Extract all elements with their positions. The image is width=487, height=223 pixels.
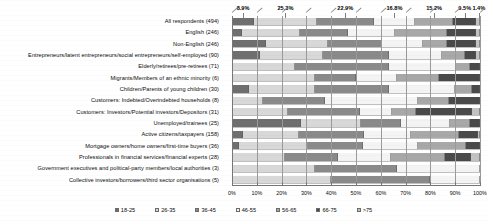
bar-segment [232,131,243,138]
stacked-bar-chart: 8.9%25.3%22.9%16.8%15.2%9.5%1.4% All res… [0,0,487,223]
bar-row [232,118,480,129]
legend-item[interactable]: 66-75 [316,207,336,213]
category-label: Mortgage owners/home owners/first-time b… [0,141,222,152]
bar-segment [317,18,374,25]
data-label: 15.2% [426,5,442,11]
stacked-bar [232,108,480,115]
legend-swatch-icon [115,208,119,212]
bar-segment [470,63,480,70]
bar-segment [288,108,360,115]
bar-segment [466,142,480,149]
x-tick-mark [306,182,307,186]
stacked-bar [232,74,480,81]
bar-segment [232,108,288,115]
bar-segment [232,29,242,36]
stacked-bar [232,63,480,70]
data-label: 8.9% [237,5,250,11]
bar-segment [392,108,416,115]
stacked-bar [232,18,480,25]
bar-segment [459,131,478,138]
legend-label: 46-55 [242,207,256,213]
bar-segment [300,29,348,36]
category-label: Children/Parents of young children (30) [0,84,222,95]
bar-segment [415,18,453,25]
bar-segment [397,74,438,81]
x-tick-mark [381,182,382,186]
bar-segment [232,153,285,160]
bar-row [232,73,480,84]
bar-segment [232,63,295,70]
bar-segment [397,165,480,172]
bar-segment [328,40,383,47]
bar-segment [439,74,480,81]
stacked-bar [232,131,480,138]
legend-label: >75 [363,207,373,213]
x-tick-mark [455,182,456,186]
stacked-bar [232,97,480,104]
legend-item[interactable]: >75 [357,207,373,213]
bar-row [232,61,480,72]
legend-swatch-icon [276,208,280,212]
bar-segment [232,74,315,81]
bar-segment [411,131,460,138]
x-tick-mark [331,182,332,186]
stacked-bar [232,153,480,160]
x-tick-label: 70% [400,190,411,196]
bar-segment [364,131,411,138]
bar-segment [395,29,446,36]
bar-row [232,39,480,50]
bar-segment [308,142,363,149]
bar-segment [285,153,338,160]
legend-item[interactable]: 36-45 [195,207,215,213]
bar-segment [389,63,455,70]
stacked-bar [232,40,480,47]
legend-label: 36-45 [201,207,215,213]
bar-segment [232,51,260,58]
x-tick-mark [480,182,481,186]
bar-segment [323,51,389,58]
bar-rows [232,16,480,186]
bar-segment [360,108,392,115]
bar-segment [476,51,480,58]
bar-segment [232,165,315,172]
bar-segment [442,51,465,58]
chart-legend: 18-2526-3536-4546-5556-6566-75>75 [0,203,487,217]
x-tick-label: 10% [251,190,262,196]
category-label: Professionals in financial services/fina… [0,152,222,163]
bar-segment [232,119,301,126]
category-label: Government executives and political-part… [0,163,222,174]
x-tick-label: 30% [301,190,312,196]
legend-label: 66-75 [322,207,336,213]
bar-segment [249,85,315,92]
x-tick-label: 60% [375,190,386,196]
data-label: 9.5% [458,5,471,11]
legend-item[interactable]: 18-25 [115,207,135,213]
bar-segment [232,142,239,149]
bar-segment [232,85,249,92]
legend-swatch-icon [236,208,240,212]
category-label: Active citizens/taxpayers (158) [0,129,222,140]
bar-segment [389,85,455,92]
bar-segment [476,18,479,25]
category-label: All respondents (494) [0,16,222,27]
bar-segment [389,51,441,58]
x-tick-label: 0% [228,190,236,196]
x-tick-mark [257,182,258,186]
legend-item[interactable]: 46-55 [236,207,256,213]
bar-segment [478,131,480,138]
bar-segment [455,85,472,92]
bar-segment [472,85,480,92]
bar-segment [447,29,476,36]
bar-segment [447,40,476,47]
legend-item[interactable]: 26-35 [155,207,175,213]
bar-row [232,50,480,61]
bar-segment [232,97,263,104]
legend-item[interactable]: 56-65 [276,207,296,213]
bar-segment [232,18,254,25]
category-label: Elderly/retirees/pre-retirees (71) [0,61,222,72]
bar-segment [242,29,300,36]
bar-segment [260,51,323,58]
bar-segment [254,18,317,25]
bar-segment [348,29,395,36]
bar-row [232,107,480,118]
